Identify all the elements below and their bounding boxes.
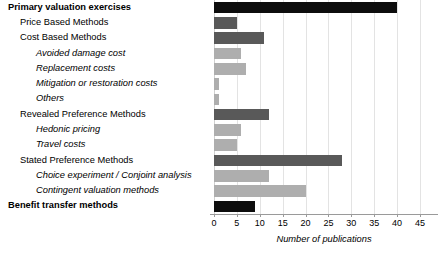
x-axis: Number of publications 05101520253035404… — [210, 214, 438, 256]
bar — [214, 201, 255, 213]
bar-row — [210, 15, 438, 30]
publications-bar-chart: Primary valuation exercisesPrice Based M… — [0, 0, 438, 256]
category-row: Replacement costs — [0, 61, 210, 76]
bar — [214, 109, 269, 121]
category-label: Mitigation or restoration costs — [0, 79, 157, 89]
bar — [214, 48, 241, 60]
bar-row — [210, 0, 438, 15]
bar — [214, 124, 241, 136]
tick-mark-15 — [283, 214, 284, 217]
bar — [214, 32, 264, 44]
category-label: Avoided damage cost — [0, 49, 125, 59]
bar — [214, 170, 269, 182]
tick-mark-45 — [420, 214, 421, 217]
category-label: Contingent valuation methods — [0, 186, 159, 196]
category-label: Replacement costs — [0, 64, 115, 74]
tick-label: 0 — [211, 218, 216, 228]
category-label: Benefit transfer methods — [0, 201, 118, 211]
category-label: Travel costs — [0, 140, 85, 150]
category-label: Price Based Methods — [0, 18, 108, 28]
tick-mark-10 — [260, 214, 261, 217]
category-row: Travel costs — [0, 138, 210, 153]
category-row: Price Based Methods — [0, 15, 210, 30]
category-row: Choice experiment / Conjoint analysis — [0, 168, 210, 183]
tick-label: 35 — [369, 218, 379, 228]
bar — [214, 63, 246, 75]
bar-row — [210, 61, 438, 76]
tick-label: 40 — [392, 218, 402, 228]
tick-mark-40 — [397, 214, 398, 217]
category-label: Revealed Preference Methods — [0, 110, 146, 120]
category-row: Stated Preference Methods — [0, 153, 210, 168]
tick-label: 30 — [346, 218, 356, 228]
bar-row — [210, 199, 438, 214]
bar — [214, 185, 306, 197]
bar-row — [210, 31, 438, 46]
category-row: Primary valuation exercises — [0, 0, 210, 15]
category-row: Mitigation or restoration costs — [0, 76, 210, 91]
bar-row — [210, 153, 438, 168]
bar — [214, 78, 219, 90]
tick-mark-25 — [328, 214, 329, 217]
tick-label: 20 — [301, 218, 311, 228]
tick-mark-20 — [306, 214, 307, 217]
category-label: Others — [0, 94, 64, 104]
tick-label: 45 — [415, 218, 425, 228]
bar — [214, 17, 237, 29]
bar-row — [210, 76, 438, 91]
category-row: Cost Based Methods — [0, 31, 210, 46]
x-axis-line — [210, 214, 438, 215]
category-label: Stated Preference Methods — [0, 156, 133, 166]
category-label: Hedonic pricing — [0, 125, 100, 135]
bar-row — [210, 168, 438, 183]
bar — [214, 94, 219, 106]
category-row: Benefit transfer methods — [0, 199, 210, 214]
bar — [214, 139, 237, 151]
tick-label: 15 — [278, 218, 288, 228]
tick-mark-5 — [237, 214, 238, 217]
bar — [214, 2, 397, 14]
bar-row — [210, 183, 438, 198]
category-row: Contingent valuation methods — [0, 183, 210, 198]
category-label: Cost Based Methods — [0, 33, 106, 43]
bar-row — [210, 107, 438, 122]
category-row: Revealed Preference Methods — [0, 107, 210, 122]
category-row: Avoided damage cost — [0, 46, 210, 61]
bar-row — [210, 46, 438, 61]
x-axis-title: Number of publications — [210, 234, 438, 244]
bar-row — [210, 138, 438, 153]
tick-label: 5 — [234, 218, 239, 228]
category-row: Hedonic pricing — [0, 122, 210, 137]
tick-mark-0 — [214, 214, 215, 217]
tick-mark-30 — [351, 214, 352, 217]
bar-row — [210, 92, 438, 107]
tick-mark-35 — [374, 214, 375, 217]
bar — [214, 155, 342, 167]
bar-row — [210, 122, 438, 137]
tick-label: 10 — [255, 218, 265, 228]
plot-area — [210, 0, 438, 214]
tick-label: 25 — [323, 218, 333, 228]
category-row: Others — [0, 92, 210, 107]
category-label-column: Primary valuation exercisesPrice Based M… — [0, 0, 210, 214]
category-label: Primary valuation exercises — [0, 3, 131, 13]
category-label: Choice experiment / Conjoint analysis — [0, 171, 192, 181]
